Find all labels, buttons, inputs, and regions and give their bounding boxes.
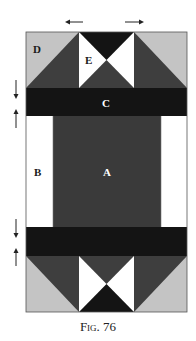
band-c-bottom xyxy=(26,227,187,256)
label-c: C xyxy=(102,97,110,109)
arrow-right-icon xyxy=(125,20,144,25)
figure-caption: Fig. 76 xyxy=(0,319,196,335)
caption-number: 76 xyxy=(103,319,116,334)
label-e: E xyxy=(85,54,92,66)
column-b-right xyxy=(161,116,187,227)
arrow-down-icon xyxy=(14,80,19,99)
arrow-left-icon xyxy=(65,20,83,25)
label-a: A xyxy=(103,166,111,178)
label-b: B xyxy=(34,166,42,178)
quilt-block-diagram: D E C B A xyxy=(0,0,196,341)
arrow-down-icon xyxy=(14,219,19,238)
arrow-up-icon xyxy=(14,109,19,128)
bottom-row xyxy=(26,256,187,312)
caption-prefix: Fig. xyxy=(80,319,100,334)
label-d: D xyxy=(33,43,41,55)
arrow-up-icon xyxy=(14,248,19,266)
top-row xyxy=(26,32,187,88)
